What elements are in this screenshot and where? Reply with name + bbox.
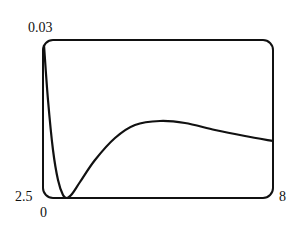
data-curve: [44, 45, 273, 198]
x-max-label: 8: [279, 190, 286, 204]
y-min-label: 2.5: [15, 190, 33, 204]
y-max-label: 0.03: [28, 21, 53, 35]
x-min-label: 0: [40, 206, 47, 220]
plot-frame: [43, 40, 273, 198]
